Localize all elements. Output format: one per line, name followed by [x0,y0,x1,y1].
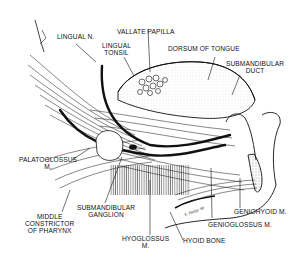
label-palatoglossus-m: PALATOGLOSSUS M. [19,156,77,170]
label-hyoglossus-m: HYOGLOSSUS M. [122,235,169,249]
label-submandibular-duct: SUBMANDIBULAR DUCT [226,60,284,74]
label-middle-constrictor: MIDDLE CONSTRICTOR OF PHARYNX [25,213,74,235]
ganglion-node [129,145,137,150]
artist-signature: E. Hodge '89 [183,205,205,217]
pharynx-outline [35,20,44,52]
label-lingual-tonsil: LINGUAL TONSIL [102,42,131,56]
label-lingual-nerve: LINGUAL N. [57,33,94,40]
label-genioglossus-m: GENIOGLOSSUS M. [208,221,272,228]
hyoid-bone-shape [175,196,215,208]
label-geniohyoid-m: GENIOHYOID M. [234,208,287,215]
label-dorsum-of-tongue: DORSUM OF TONGUE [168,45,240,52]
label-hyoid-bone: HYOID BONE [183,237,225,244]
label-vallate-papilla: VALLATE PAPILLA [117,28,175,35]
label-submandibular-ganglion: SUBMANDIBULAR GANGLION [77,204,135,218]
submandibular-ganglion-shape [96,131,123,161]
